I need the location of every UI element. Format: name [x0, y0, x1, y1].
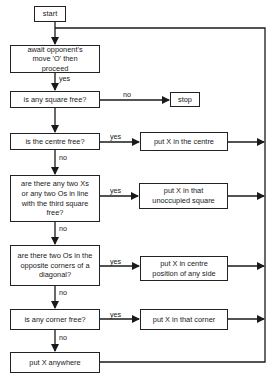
label-no-square: no: [123, 91, 131, 99]
square-free-decision: is any square free?: [10, 91, 100, 108]
put-centre-action: put X in the centre: [140, 132, 228, 151]
label-no-two: no: [59, 225, 67, 233]
two-os-diagonal-decision: are there two Os in the opposite corners…: [10, 245, 100, 286]
label-yes-two: yes: [110, 187, 121, 195]
label-yes-await: yes: [59, 75, 70, 83]
centre-free-decision: is the centre free?: [10, 133, 100, 150]
label-yes-diag: yes: [110, 258, 121, 266]
start-node: start: [34, 6, 66, 22]
label-no-diag: no: [59, 289, 67, 297]
label-yes-corner: yes: [110, 311, 121, 319]
put-side-action: put X in centre position of any side: [140, 256, 228, 281]
stop-node: stop: [170, 92, 200, 107]
await-move-node: await opponent's move 'O' then proceed: [10, 45, 100, 73]
label-no-corner: no: [59, 334, 67, 342]
put-anywhere-action: put X anywhere: [10, 352, 100, 373]
label-no-centre: no: [59, 154, 67, 162]
put-corner-action: put X in that corner: [140, 309, 228, 330]
put-unoccupied-action: put X in that unoccupied square: [139, 183, 228, 209]
two-in-line-decision: are there any two Xs or any two Os in li…: [10, 175, 100, 222]
corner-free-decision: is any corner free?: [10, 309, 100, 330]
label-yes-centre: yes: [110, 133, 121, 141]
